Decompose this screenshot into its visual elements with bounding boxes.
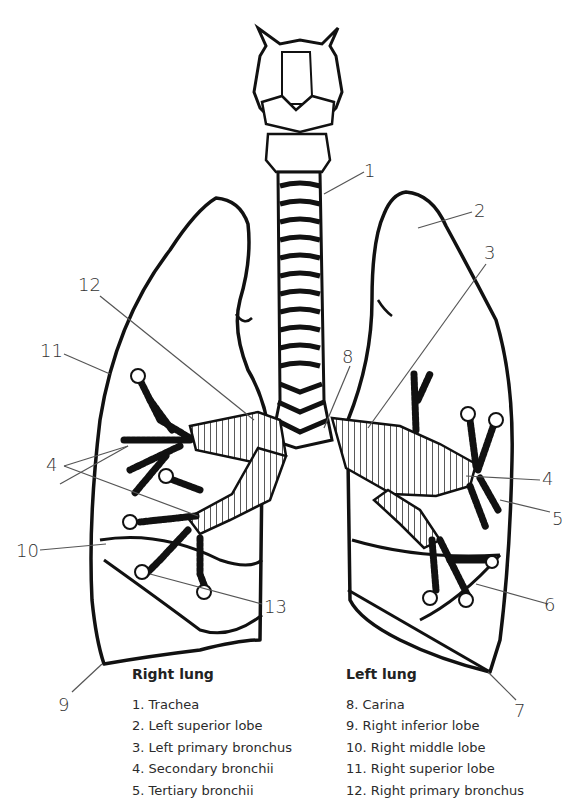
legend-list: 8. Carina 9. Right inferior lobe 10. Rig…: [346, 694, 524, 801]
callout-1: 1: [364, 162, 375, 180]
legend-item: 11. Right superior lobe: [346, 758, 524, 780]
callout-8: 8: [342, 348, 353, 366]
callout-2: 2: [474, 202, 485, 220]
larynx: [254, 28, 342, 172]
callout-12: 12: [78, 276, 101, 294]
callout-4-right: 4: [542, 470, 553, 488]
legend-item: 3. Left primary bronchus: [132, 737, 292, 759]
legend-right-lung: Right lung 1. Trachea 2. Left superior l…: [132, 664, 292, 801]
bronchioles-right: [124, 380, 206, 590]
legend-item: 12. Right primary bronchus: [346, 780, 524, 801]
legend-heading: Left lung: [346, 664, 524, 686]
trachea: [272, 172, 332, 448]
callout-6: 6: [544, 596, 555, 614]
legend-item: 8. Carina: [346, 694, 524, 716]
legend-item: 9. Right inferior lobe: [346, 715, 524, 737]
callout-9: 9: [58, 696, 69, 714]
legend-item: 4. Secondary bronchii: [132, 758, 292, 780]
legend-item: 10. Right middle lobe: [346, 737, 524, 759]
legend-item: 1. Trachea: [132, 694, 292, 716]
callout-11: 11: [40, 342, 63, 360]
callout-3: 3: [484, 244, 495, 262]
legend-left-lung: Left lung 8. Carina 9. Right inferior lo…: [346, 664, 524, 801]
legend-item: 5. Tertiary bronchii: [132, 780, 292, 801]
legend-item: 2. Left superior lobe: [132, 715, 292, 737]
callout-4-left: 4: [46, 456, 57, 474]
legend-heading: Right lung: [132, 664, 292, 686]
callout-13: 13: [264, 598, 287, 616]
callout-5: 5: [552, 510, 563, 528]
legend-list: 1. Trachea 2. Left superior lobe 3. Left…: [132, 694, 292, 801]
callout-10: 10: [16, 542, 39, 560]
